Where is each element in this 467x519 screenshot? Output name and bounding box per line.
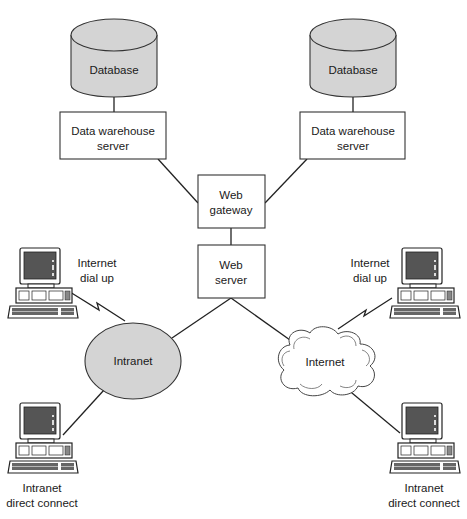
client-label-line1: Internet	[78, 257, 118, 269]
computer-icon	[8, 248, 78, 318]
data-warehouse-server-right: Data warehouse server	[300, 112, 405, 159]
database-label: Database	[89, 64, 138, 76]
internet-label: Internet	[306, 356, 346, 368]
gateway-label-line1: Web	[219, 189, 242, 201]
link-dialup-right	[338, 298, 392, 329]
server-label-line2: server	[337, 140, 369, 152]
web-server-label-line2: server	[215, 274, 247, 286]
link-dw-right-gateway	[265, 159, 307, 203]
link-server-internet	[231, 298, 290, 340]
link-intranet-direct-left	[63, 390, 104, 435]
network-diagram: Database Database Data warehouse server …	[0, 0, 467, 519]
link-dw-left-gateway	[158, 159, 198, 203]
client-label-line1: Intranet	[23, 482, 63, 494]
database-left: Database	[71, 19, 157, 97]
data-warehouse-server-left: Data warehouse server	[60, 112, 166, 159]
database-label: Database	[328, 64, 377, 76]
client-intranet-direct-left: Intranet direct connect	[6, 403, 78, 509]
client-internet-dialup-left: Internet dial up	[8, 248, 117, 318]
intranet-network: Intranet	[85, 323, 181, 399]
client-label-line2: direct connect	[388, 497, 460, 509]
intranet-label: Intranet	[114, 355, 154, 367]
client-label-line2: dial up	[353, 272, 387, 284]
server-label-line1: Data warehouse	[311, 125, 395, 137]
client-internet-dialup-right: Internet dial up	[351, 248, 461, 318]
internet-network: Internet	[278, 327, 375, 396]
client-label-line1: Internet	[351, 257, 391, 269]
client-intranet-direct-right: Intranet direct connect	[388, 403, 460, 509]
web-server: Web server	[198, 245, 265, 298]
client-label-line1: Intranet	[405, 482, 445, 494]
server-label-line1: Data warehouse	[71, 125, 155, 137]
client-label-line2: direct connect	[6, 497, 78, 509]
computer-icon	[390, 403, 460, 473]
link-internet-direct-right	[346, 388, 400, 433]
computer-icon	[8, 403, 78, 473]
client-label-line2: dial up	[80, 272, 114, 284]
database-right: Database	[310, 19, 396, 97]
web-gateway: Web gateway	[198, 175, 265, 228]
web-server-label-line1: Web	[219, 259, 242, 271]
gateway-label-line2: gateway	[210, 204, 253, 216]
server-label-line2: server	[97, 140, 129, 152]
computer-icon	[390, 248, 460, 318]
link-server-intranet	[172, 298, 231, 338]
